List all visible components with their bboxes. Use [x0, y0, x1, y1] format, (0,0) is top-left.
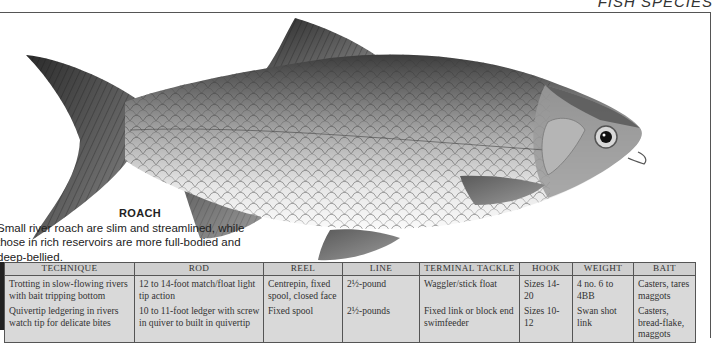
- cell-technique: Quivertip ledgering in rivers watch tip …: [5, 303, 135, 342]
- cell-technique: Trotting in slow-flowing rivers with bai…: [5, 276, 135, 304]
- species-caption: ROACH Small river roach are slim and str…: [0, 206, 260, 264]
- cell-bait: Casters, bread-flake, maggots: [634, 303, 696, 342]
- cell-hook: Sizes 10-12: [520, 303, 573, 342]
- cell-terminal-tackle: Fixed link or block end swimfeeder: [420, 303, 520, 342]
- cell-rod: 10 to 11-foot ledger with screw in quive…: [135, 303, 264, 342]
- header-hook: HOOK: [520, 263, 573, 276]
- header-reel: REEL: [264, 263, 343, 276]
- cell-terminal-tackle: Waggler/stick float: [420, 276, 520, 304]
- cell-hook: Sizes 14-20: [520, 276, 573, 304]
- cell-line: 2½-pound: [343, 276, 420, 304]
- header-technique: TECHNIQUE: [5, 263, 135, 276]
- header-line: LINE: [343, 263, 420, 276]
- cell-weight: 4 no. 6 to 4BB: [573, 276, 634, 304]
- header-weight: WEIGHT: [573, 263, 634, 276]
- species-description: Small river roach are slim and streamlin…: [0, 221, 260, 265]
- cell-rod: 12 to 14-foot match/float light tip acti…: [135, 276, 264, 304]
- cell-weight: Swan shot link: [573, 303, 634, 342]
- header-rod: ROD: [135, 263, 264, 276]
- table-row: Quivertip ledgering in rivers watch tip …: [5, 303, 696, 342]
- cell-reel: Fixed spool: [264, 303, 343, 342]
- table-header-row: TECHNIQUE ROD REEL LINE TERMINAL TACKLE …: [5, 263, 696, 276]
- tackle-table: TECHNIQUE ROD REEL LINE TERMINAL TACKLE …: [4, 262, 696, 343]
- species-name: ROACH: [0, 206, 260, 221]
- table-row: Trotting in slow-flowing rivers with bai…: [5, 276, 696, 304]
- header-terminal-tackle: TERMINAL TACKLE: [420, 263, 520, 276]
- cell-bait: Casters, tares maggots: [634, 276, 696, 304]
- cell-line: 2½-pounds: [343, 303, 420, 342]
- header-bait: BAIT: [634, 263, 696, 276]
- cell-reel: Centrepin, fixed spool, closed face: [264, 276, 343, 304]
